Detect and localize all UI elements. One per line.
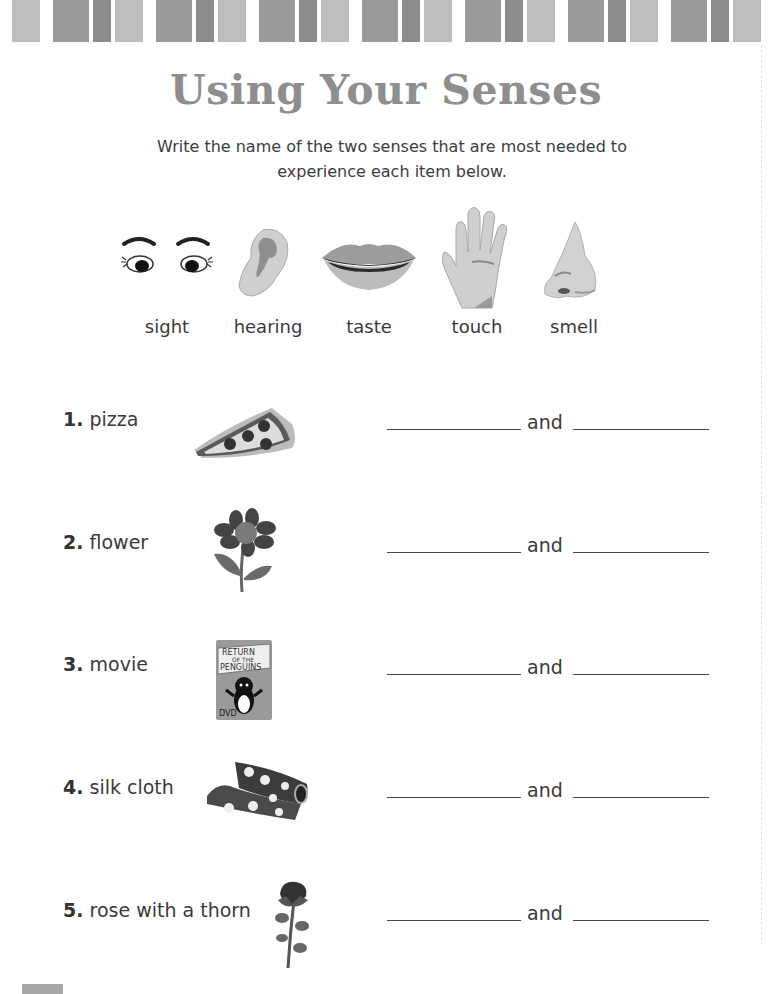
stripe-bar [156,0,192,42]
page-title: Using Your Senses [0,66,772,114]
sense-sight [112,200,222,290]
answer-row-1: and [387,400,709,430]
page-edge-guide [761,45,762,945]
item-number: 3. [63,653,83,675]
answer-row-5: and [387,891,709,921]
silk-cloth-icon [205,758,310,828]
flower-icon [208,508,283,597]
answer-blank-4b[interactable] [573,797,709,798]
stripe-bar [527,0,555,42]
sense-label-taste: taste [314,316,424,337]
sense-label-hearing: hearing [213,316,323,337]
hand-icon [422,200,532,310]
sense-taste [314,200,424,300]
eyes-icon [112,200,222,290]
sense-label-smell: smell [519,316,629,337]
stripe-bar [630,0,658,42]
answer-row-3: and [387,645,709,675]
stripe-bar [671,0,707,42]
dvd-title-line2: OF THE [232,656,254,663]
and-connector: and [527,779,563,801]
item-name: rose with a thorn [90,899,251,921]
stripe-bar [568,0,604,42]
dvd-case-icon: RETURN OF THE PENGUINS DVD [212,638,274,724]
answer-row-4: and [387,768,709,798]
answer-row-2: and [387,523,709,553]
instructions: Write the name of the two senses that ar… [150,134,634,184]
answer-blank-3a[interactable] [387,674,521,675]
decorative-stripe-border [0,0,772,42]
answer-blank-1b[interactable] [573,429,709,430]
item-name: pizza [90,408,139,430]
stripe-bar [733,0,761,42]
sense-smell [519,200,629,310]
rose-icon [272,878,314,974]
answer-blank-5b[interactable] [573,920,709,921]
answer-blank-3b[interactable] [573,674,709,675]
item-3-label: 3. movie [63,653,148,675]
stripe-bar [402,0,411,42]
dvd-format-label: DVD [219,709,237,718]
sense-label-sight: sight [112,316,222,337]
stripe-bar [12,0,40,42]
stripe-bar [424,0,452,42]
stripe-bar [608,0,617,42]
stripe-bar [505,0,514,42]
item-number: 5. [63,899,83,921]
page-footer-tab [22,984,63,994]
sense-hearing [213,200,323,300]
item-5-label: 5. rose with a thorn [63,899,251,921]
item-name: flower [90,531,149,553]
and-connector: and [527,534,563,556]
answer-blank-2b[interactable] [573,552,709,553]
and-connector: and [527,411,563,433]
stripe-bar [53,0,89,42]
stripe-bar [196,0,205,42]
nose-icon [519,200,629,310]
stripe-bar [465,0,501,42]
item-2-label: 2. flower [63,531,148,553]
item-4-label: 4. silk cloth [63,776,174,798]
item-number: 2. [63,531,83,553]
item-number: 1. [63,408,83,430]
answer-blank-5a[interactable] [387,920,521,921]
and-connector: and [527,902,563,924]
mouth-icon [314,200,424,300]
stripe-bar [321,0,349,42]
item-number: 4. [63,776,83,798]
stripe-bar [115,0,143,42]
dvd-title-line3: PENGUINS [220,663,261,672]
stripe-bar [711,0,720,42]
ear-icon [213,200,323,300]
sense-label-touch: touch [422,316,532,337]
stripe-bar [93,0,102,42]
answer-blank-4a[interactable] [387,797,521,798]
stripe-bar [299,0,308,42]
stripe-bar [218,0,246,42]
stripe-bar [259,0,295,42]
item-1-label: 1. pizza [63,408,138,430]
stripe-bar [362,0,398,42]
item-name: silk cloth [90,776,174,798]
answer-blank-1a[interactable] [387,429,521,430]
sense-touch [422,200,532,310]
pizza-slice-icon [192,404,302,468]
answer-blank-2a[interactable] [387,552,521,553]
and-connector: and [527,656,563,678]
item-name: movie [90,653,148,675]
